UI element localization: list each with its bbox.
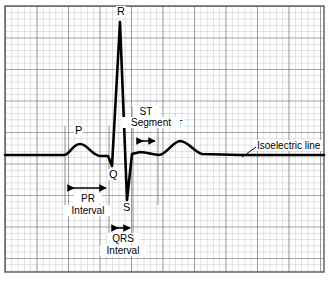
pr-interval-label-line2: Interval bbox=[65, 205, 111, 216]
qrs-interval-label-line1: QRS bbox=[107, 233, 139, 244]
st-segment-label-line1: ST bbox=[133, 106, 159, 117]
qrs-interval-label-line2: Interval bbox=[100, 245, 146, 256]
st-segment-label-line2: Segment bbox=[122, 117, 180, 128]
q-wave-label: Q bbox=[108, 169, 119, 180]
isoelectric-line-label: Isoelectric line bbox=[256, 140, 321, 151]
ecg-waveform-figure: P Q R S T ST Segment PR Interval QRS Int… bbox=[0, 0, 331, 283]
p-wave-label: P bbox=[74, 125, 83, 136]
pr-interval-label-line1: PR bbox=[74, 193, 102, 204]
s-wave-label: S bbox=[122, 202, 131, 213]
r-wave-label: R bbox=[116, 6, 126, 17]
ecg-grid bbox=[5, 6, 324, 272]
